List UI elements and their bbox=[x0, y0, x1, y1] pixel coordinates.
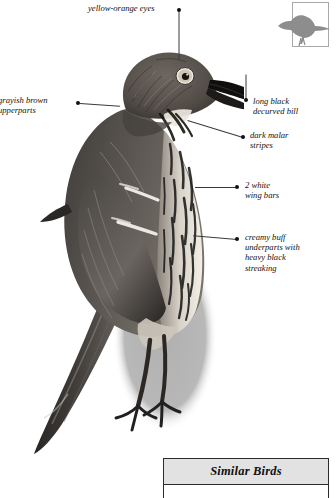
callout-dot-malar bbox=[241, 135, 245, 139]
range-map-thumbnail bbox=[276, 2, 332, 50]
callout-label-bill: long black decurved bill bbox=[253, 96, 335, 116]
callout-text: yellow-orange eyes bbox=[88, 3, 155, 13]
callout-label-malar: dark malar stripes bbox=[250, 130, 332, 150]
similar-birds-title: Similar Birds bbox=[210, 464, 282, 479]
leader-line-eyes bbox=[179, 12, 180, 60]
similar-birds-header: Similar Birds bbox=[164, 459, 328, 485]
callout-dot-upperparts bbox=[76, 101, 80, 105]
callout-text-line: underparts with bbox=[245, 242, 333, 252]
callout-text-line: decurved bill bbox=[253, 106, 335, 116]
leader-line-wingbars bbox=[195, 187, 237, 188]
callout-text-line: 2 white bbox=[245, 180, 327, 190]
callout-dot-underparts bbox=[235, 237, 239, 241]
thrasher-illustration bbox=[14, 18, 244, 458]
callout-label-wingbars: 2 white wing bars bbox=[245, 180, 327, 200]
callout-label-eyes: yellow-orange eyes bbox=[88, 3, 178, 13]
callout-label-upperparts: grayish brown upperparts bbox=[0, 95, 74, 115]
callout-text-line: long black bbox=[253, 96, 335, 106]
callout-text-line: grayish brown bbox=[0, 95, 74, 105]
callout-text-line: stripes bbox=[250, 140, 332, 150]
callout-text-line: upperparts bbox=[0, 105, 74, 115]
callout-text-line: creamy buff bbox=[245, 232, 333, 242]
similar-birds-box: Similar Birds bbox=[163, 458, 329, 498]
range-map-bird-silhouette bbox=[276, 2, 332, 50]
callout-text-line: streaking bbox=[245, 263, 333, 273]
leader-line-bill bbox=[246, 75, 247, 101]
callout-label-underparts: creamy buff underparts with heavy black … bbox=[245, 232, 333, 273]
callout-text-line: heavy black bbox=[245, 252, 333, 262]
callout-text-line: wing bars bbox=[245, 190, 327, 200]
callout-dot-wingbars bbox=[235, 185, 239, 189]
similar-birds-content bbox=[164, 485, 328, 498]
callout-text-line: dark malar bbox=[250, 130, 332, 140]
callout-dot-bill bbox=[244, 98, 248, 102]
